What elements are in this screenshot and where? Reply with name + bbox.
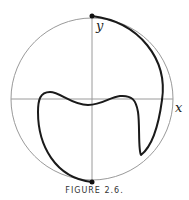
figure-caption: FIGURE 2.6. [0,186,189,195]
x-axis-label: x [175,100,183,115]
top-point [90,14,95,19]
y-axis-label: y [95,18,104,33]
figure-diagram: y x [0,0,189,200]
bottom-point [90,180,95,185]
